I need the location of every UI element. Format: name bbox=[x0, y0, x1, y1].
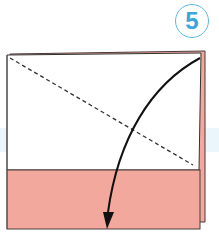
folded-strip bbox=[7, 170, 200, 229]
paper-front bbox=[7, 53, 201, 170]
origami-diagram bbox=[0, 0, 219, 245]
